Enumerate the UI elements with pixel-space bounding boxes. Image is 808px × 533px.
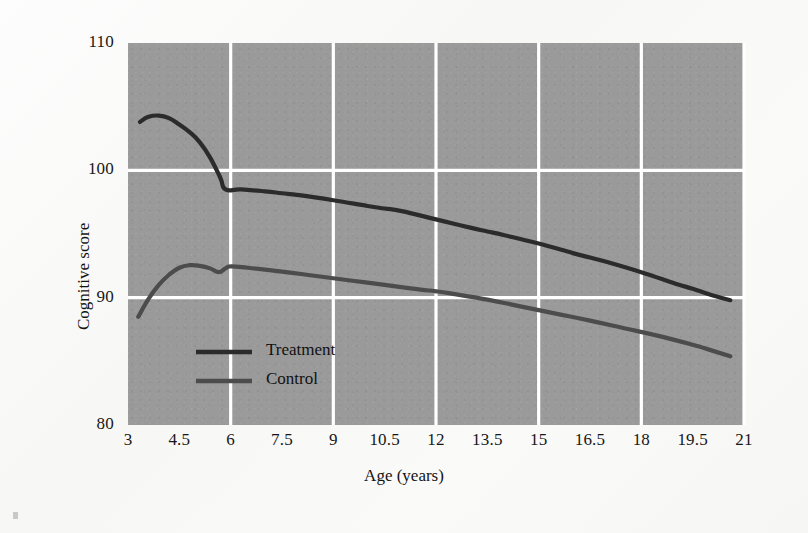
x-tick-label: 21	[714, 430, 774, 450]
legend-label-control: Control	[266, 369, 318, 389]
legend-swatches	[196, 352, 252, 381]
chart-canvas	[0, 0, 808, 533]
y-tick-label: 110	[68, 32, 114, 52]
gridlines	[128, 43, 744, 425]
page-corner-mark	[13, 512, 18, 519]
figure-page: 8090100110 34.567.5910.51213.51516.51819…	[0, 0, 808, 533]
y-tick-label: 100	[68, 159, 114, 179]
y-axis-title: Cognitive score	[74, 223, 94, 330]
legend-label-treatment: Treatment	[266, 340, 335, 360]
chart-figure: 8090100110 34.567.5910.51213.51516.51819…	[0, 0, 808, 533]
x-axis-title: Age (years)	[0, 466, 808, 486]
